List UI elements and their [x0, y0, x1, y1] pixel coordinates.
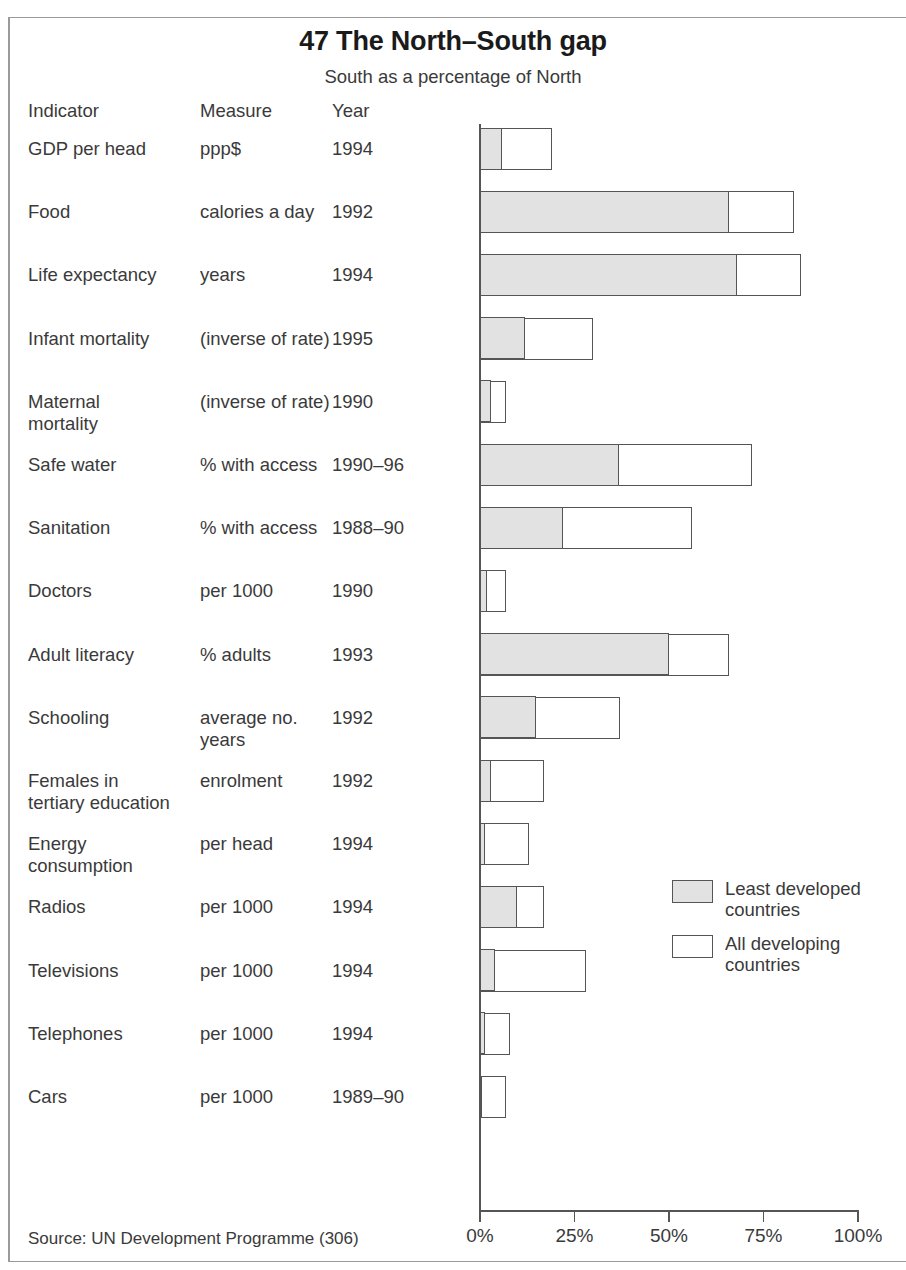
x-tick-label: 50%: [624, 1225, 714, 1247]
chart-page: 47 The North–South gap South as a percen…: [0, 0, 906, 1270]
x-tick: [857, 1210, 859, 1222]
bar-chart-plot: 0%25%50%75%100%: [0, 0, 906, 1270]
bar-least-developed: [480, 380, 491, 422]
x-tick-label: 0%: [435, 1225, 525, 1247]
source-note: Source: UN Development Programme (306): [28, 1229, 359, 1249]
bar-least-developed: [480, 444, 620, 486]
bar-all-developing: [480, 318, 593, 360]
bar-all-developing: [480, 507, 692, 549]
bar-all-developing: [480, 823, 529, 865]
bar-all-developing: [480, 760, 544, 802]
bar-all-developing: [480, 634, 729, 676]
x-tick: [668, 1210, 670, 1222]
legend-label-all-developing: All developing countries: [725, 933, 840, 975]
bar-all-developing: [480, 697, 620, 739]
bar-all-developing: [480, 1076, 506, 1118]
bar-all-developing: [480, 128, 552, 170]
x-tick-label: 75%: [719, 1225, 809, 1247]
bar-least-developed: [480, 570, 488, 612]
bar-least-developed: [480, 823, 486, 865]
bar-all-developing: [480, 254, 801, 296]
bar-all-developing: [480, 886, 544, 928]
legend-swatch-least-developed: [672, 880, 713, 903]
bar-least-developed: [480, 633, 669, 675]
bar-least-developed: [480, 128, 503, 170]
bar-all-developing: [480, 570, 506, 612]
bar-least-developed: [480, 949, 495, 991]
bar-least-developed: [480, 760, 491, 802]
bar-least-developed: [480, 507, 563, 549]
x-tick: [479, 1210, 481, 1222]
bar-least-developed: [480, 1076, 482, 1118]
bar-all-developing: [480, 1013, 510, 1055]
bar-least-developed: [480, 317, 525, 359]
bar-least-developed: [480, 886, 518, 928]
legend-swatch-all-developing: [672, 935, 713, 958]
bar-least-developed: [480, 191, 729, 233]
bar-least-developed: [480, 254, 737, 296]
bar-all-developing: [480, 950, 586, 992]
bar-least-developed: [480, 696, 537, 738]
x-tick: [574, 1210, 576, 1222]
bar-least-developed: [480, 1012, 486, 1054]
bar-all-developing: [480, 191, 794, 233]
bar-all-developing: [480, 444, 752, 486]
x-tick: [763, 1210, 765, 1222]
x-tick-label: 100%: [813, 1225, 903, 1247]
x-tick-label: 25%: [530, 1225, 620, 1247]
legend-label-least-developed: Least developed countries: [725, 878, 861, 920]
bar-all-developing: [480, 381, 506, 423]
